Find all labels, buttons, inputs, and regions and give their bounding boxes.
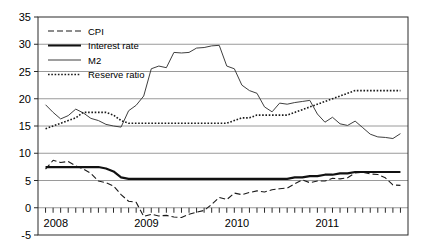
y-tick-label: -5 bbox=[21, 229, 31, 241]
legend-label-reserve-ratio: Reserve ratio bbox=[88, 69, 145, 80]
legend-label-interest-rate: Interest rate bbox=[88, 40, 139, 51]
y-tick-label: 20 bbox=[19, 93, 31, 105]
y-tick-label: 25 bbox=[19, 66, 31, 78]
y-axis-tick-labels: -505101520253035 bbox=[19, 11, 31, 241]
legend-label-m2: M2 bbox=[88, 55, 101, 66]
y-axis-ticks bbox=[34, 17, 38, 235]
y-tick-label: 35 bbox=[19, 11, 31, 23]
y-tick-label: 5 bbox=[25, 175, 31, 187]
x-tick-label: 2011 bbox=[315, 217, 339, 229]
legend-label-cpi: CPI bbox=[88, 26, 104, 37]
y-tick-label: 30 bbox=[19, 38, 31, 50]
line-chart: -505101520253035 2008200920102011 CPIInt… bbox=[0, 0, 426, 250]
y-tick-label: 0 bbox=[25, 202, 31, 214]
x-tick-label: 2008 bbox=[44, 217, 68, 229]
x-tick-label: 2010 bbox=[225, 217, 249, 229]
chart-container: -505101520253035 2008200920102011 CPIInt… bbox=[0, 0, 426, 250]
y-tick-label: 10 bbox=[19, 147, 31, 159]
y-tick-label: 15 bbox=[19, 120, 31, 132]
x-tick-label: 2009 bbox=[134, 217, 158, 229]
